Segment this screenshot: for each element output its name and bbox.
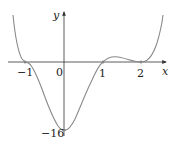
polynomial-graph: y x −1 0 1 2 −16 (0, 0, 180, 149)
tick-label-neg1: −1 (17, 66, 33, 79)
tick-label-neg16: −16 (41, 127, 64, 140)
y-axis-label: y (52, 9, 60, 22)
tick-label-1: 1 (99, 67, 106, 80)
tick-label-2: 2 (137, 67, 144, 80)
tick-label-0: 0 (56, 66, 63, 79)
x-axis-label: x (162, 65, 169, 78)
